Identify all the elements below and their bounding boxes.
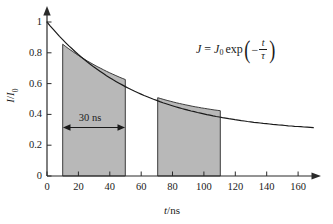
y-axis-title-slash: /: [4, 96, 16, 99]
y-tick-label-1: 1: [24, 17, 42, 28]
y-tick-label-0.2: 0.2: [24, 140, 42, 151]
equation-lhs: J: [196, 42, 201, 56]
x-tick-label-20: 20: [73, 182, 84, 193]
decay-equation-annotation: J=J0exp(−tτ): [196, 38, 276, 62]
y-axis-title-variable: I: [4, 99, 16, 103]
y-axis-arrow-icon: [43, 6, 50, 16]
x-tick-label-60: 60: [136, 182, 147, 193]
x-tick-label-100: 100: [196, 182, 212, 193]
shaded-region-1: [63, 44, 126, 176]
x-tick-label-80: 80: [167, 182, 178, 193]
x-tick-label-0: 0: [44, 182, 49, 193]
equation-open-paren: (: [244, 39, 250, 60]
x-axis-title-unit: /ns: [167, 204, 180, 216]
y-tick-label-0: 0: [24, 171, 42, 182]
y-tick-label-0.8: 0.8: [24, 48, 42, 59]
exponential-decay-chart: 0 20 40 60 80 100 120 140 160 0 0.2 0.4 …: [0, 0, 333, 224]
x-tick-label-120: 120: [227, 182, 243, 193]
equation-j0-subscript: 0: [219, 48, 223, 57]
span-annotation-label: 30 ns: [79, 113, 101, 124]
x-tick-label-160: 160: [290, 182, 306, 193]
y-axis-title: I/I0: [4, 86, 19, 106]
x-tick-label-40: 40: [105, 182, 116, 193]
y-tick-label-0.6: 0.6: [24, 78, 42, 89]
equation-minus-sign: −: [251, 43, 258, 57]
equation-fraction: tτ: [259, 38, 267, 62]
equation-close-paren: ): [269, 39, 275, 60]
y-axis-title-subscript: 0: [11, 89, 20, 93]
equation-denominator: τ: [259, 51, 267, 62]
x-tick-label-140: 140: [259, 182, 275, 193]
x-axis-title: t/ns: [164, 204, 180, 216]
shaded-region-2: [158, 98, 221, 176]
equation-exp: exp: [225, 42, 242, 56]
y-axis-ticks: [47, 22, 52, 176]
equation-equals: =: [204, 42, 211, 56]
x-axis-arrow-icon: [312, 172, 322, 179]
y-axis-title-variable-2: I: [4, 92, 16, 96]
y-tick-label-0.4: 0.4: [24, 109, 42, 120]
equation-numerator: t: [259, 38, 267, 49]
